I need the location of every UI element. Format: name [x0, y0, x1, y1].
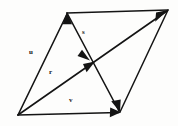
vector-u-shaft: [18, 14, 67, 115]
vector-parallelogram-figure: u s r v: [0, 0, 178, 126]
vector-label-r: r: [49, 69, 52, 76]
edge-top: [67, 10, 168, 13]
edge-right: [120, 10, 168, 112]
vector-s-shaft: [67, 13, 119, 111]
vector-v-shaft: [18, 113, 119, 116]
vector-diagram-canvas: [0, 0, 178, 126]
vector-label-s: s: [82, 29, 85, 36]
vector-label-u: u: [29, 49, 33, 56]
vector-label-v: v: [69, 97, 73, 104]
